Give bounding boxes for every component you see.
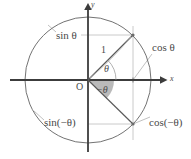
angle-neg-theta-label: −θ	[96, 85, 108, 95]
cos-neg-theta-leader-line	[133, 117, 150, 124]
x-axis-arrowhead	[160, 76, 168, 84]
cos-theta-label: cos θ	[152, 42, 175, 53]
unit-circle-figure: sin θ cos θ sin(−θ) cos(−θ) 1 θ −θ O x y	[0, 0, 191, 159]
radius-length-label: 1	[101, 45, 106, 55]
point-theta-marker	[131, 33, 134, 36]
angle-theta-label: θ	[104, 64, 109, 74]
theta-angle-arc	[108, 60, 116, 80]
point-neg-theta-marker	[131, 122, 134, 125]
unit-circle-canvas	[0, 0, 191, 159]
origin-label: O	[76, 82, 83, 92]
sin-theta-label: sin θ	[56, 30, 77, 41]
x-axis-label: x	[170, 75, 174, 83]
radius-ray-theta	[88, 35, 133, 80]
y-axis-label: y	[91, 1, 95, 9]
sin-neg-theta-label: sin(−θ)	[44, 117, 76, 128]
cos-neg-theta-label: cos(−θ)	[149, 117, 182, 128]
